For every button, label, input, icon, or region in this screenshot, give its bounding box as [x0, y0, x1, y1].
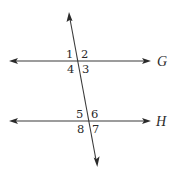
arrowhead-down-icon: [94, 156, 100, 167]
parallel-lines-diagram: 1 2 4 3 5 6 8 7 G H: [0, 0, 175, 175]
angle-label-7: 7: [92, 122, 99, 136]
line-g: [9, 58, 151, 64]
line-label-h: H: [155, 114, 167, 129]
angle-label-6: 6: [91, 107, 98, 121]
angle-label-4: 4: [67, 62, 74, 76]
angle-label-1: 1: [66, 47, 73, 61]
angle-label-5: 5: [76, 107, 83, 121]
angle-label-8: 8: [77, 122, 84, 136]
transversal-line: [67, 12, 100, 167]
angle-label-2: 2: [81, 47, 88, 61]
angle-label-3: 3: [82, 62, 89, 76]
arrowhead-up-icon: [67, 12, 73, 22]
line-label-g: G: [157, 54, 167, 69]
